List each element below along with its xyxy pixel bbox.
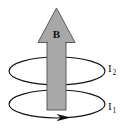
diagram-canvas: B I 2 I 1	[0, 0, 125, 133]
magnetic-field-arrow-shaft	[47, 40, 66, 110]
current-lower-label-symbol: I	[108, 100, 112, 112]
physics-diagram-figure: B I 2 I 1	[0, 0, 125, 133]
field-vector-label: B	[53, 28, 61, 40]
current-upper-label-symbol: I	[108, 62, 112, 74]
current-lower-label-subscript: 1	[113, 106, 117, 115]
magnetic-field-arrow-seam	[48, 41, 65, 44]
current-upper-label-subscript: 2	[113, 68, 117, 77]
